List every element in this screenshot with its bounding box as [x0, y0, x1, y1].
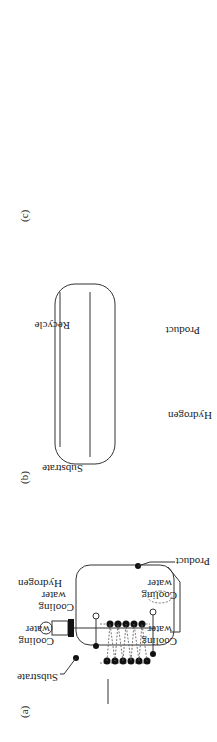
hydrogen-label-b: Hydrogen	[168, 410, 212, 422]
panel-a: (a) Substrate Cooling water C	[17, 556, 210, 718]
svg-text:water: water	[41, 590, 66, 602]
agitator-seal	[68, 619, 74, 637]
cooling-water-label-1a: Cooling	[18, 636, 54, 648]
panel-b-label: (b)	[18, 471, 31, 484]
cooling-water-label-2a: Cooling	[38, 602, 74, 614]
svg-text:water: water	[25, 624, 50, 636]
svg-text:water: water	[147, 624, 172, 636]
cooling-water-label-3a: Cooling	[141, 636, 177, 648]
tubular-reactor-vessel	[55, 284, 115, 464]
substrate-label-b: Substrate	[42, 463, 83, 475]
hydrogen-label-a: Hydrogen	[18, 578, 62, 590]
product-label-a: Product	[176, 556, 210, 568]
agitator-motor-icon	[52, 621, 68, 635]
diagram-stage: (a) Substrate Cooling water C	[0, 0, 217, 742]
cooling-water-label-4a: Cooling	[141, 590, 177, 602]
reactor-configurations-diagram: (a) Substrate Cooling water C	[0, 0, 217, 742]
panel-c: (c)	[18, 209, 31, 222]
panel-c-label: (c)	[18, 209, 31, 222]
svg-text:water: water	[147, 578, 172, 590]
panel-b: (b) Substrate Hydrogen Product Recycle	[18, 284, 212, 484]
recycle-compressor-label: Recycle	[34, 320, 70, 332]
product-label-b: Product	[166, 325, 200, 337]
panel-a-label: (a)	[18, 705, 31, 718]
cooling-coil-b	[60, 292, 90, 457]
substrate-label: Substrate	[17, 672, 58, 684]
